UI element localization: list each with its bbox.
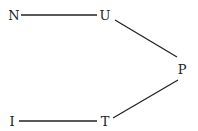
node-n: N: [8, 9, 19, 22]
node-u: U: [100, 9, 111, 22]
node-t: T: [101, 115, 110, 128]
edge-u-p: [115, 20, 177, 57]
node-i: I: [9, 115, 14, 128]
edge-p-t: [113, 80, 178, 118]
node-p: P: [178, 63, 187, 76]
